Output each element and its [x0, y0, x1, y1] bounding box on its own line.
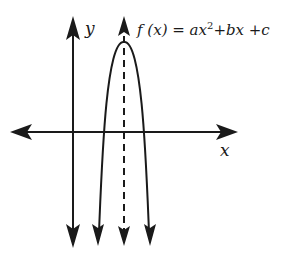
symmetry-up-arrow-icon	[118, 16, 130, 36]
y-axis-label: y	[85, 18, 95, 38]
parabola-left-arrow-icon	[92, 224, 104, 246]
x-axis-label: x	[220, 140, 230, 160]
equation-lhs: f (x) = ax	[137, 21, 207, 39]
function-equation: f (x) = ax2+bx +c	[137, 20, 270, 39]
equation-rhs: +bx +c	[213, 21, 269, 39]
parabola-right-arrow-icon	[144, 224, 156, 246]
